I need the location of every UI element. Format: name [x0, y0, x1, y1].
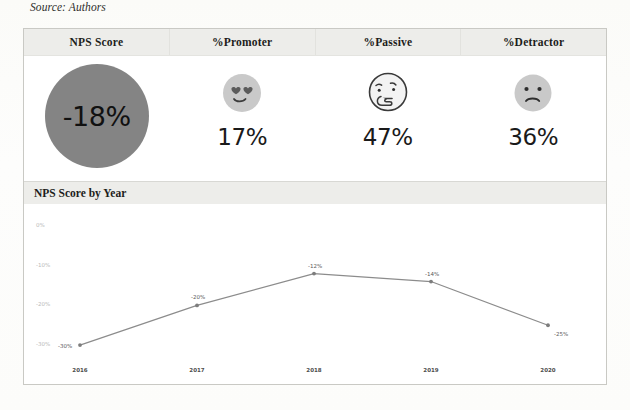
kpi-cell-detractor: 36%: [461, 56, 607, 182]
heart-eyes-face-icon: [219, 68, 265, 118]
data-point-label: -14%: [425, 271, 439, 277]
kpi-cell-passive: 47%: [315, 56, 461, 182]
x-axis-tick-label: 2020: [540, 367, 555, 373]
data-point-label: -20%: [191, 294, 205, 300]
thinking-face-icon: [365, 68, 411, 118]
kpi-header-passive: %Passive: [316, 29, 462, 55]
detractor-value: 36%: [508, 124, 558, 150]
kpi-header-nps-score: NPS Score: [24, 29, 170, 55]
kpi-header-promoter: %Promoter: [170, 29, 316, 55]
data-point-label: -25%: [554, 331, 568, 337]
kpi-cell-nps-score: -18%: [24, 56, 170, 182]
data-point-label: -30%: [58, 343, 72, 349]
kpi-body-row: -18% 17%: [24, 56, 606, 182]
frowning-face-icon: [510, 68, 556, 118]
promoter-value: 17%: [217, 124, 267, 150]
nps-score-circle: -18%: [45, 64, 149, 168]
chart-title: NPS Score by Year: [24, 182, 606, 204]
kpi-header-detractor: %Detractor: [461, 29, 606, 55]
nps-dashboard-card: NPS Score %Promoter %Passive %Detractor …: [23, 28, 607, 385]
x-axis-tick-label: 2016: [72, 367, 87, 373]
chart-plot-area: 0%-10%-20%-30%-30%-20%-12%-14%-25%201620…: [24, 204, 606, 385]
y-axis-tick-label: 0%: [36, 222, 45, 228]
y-axis-tick-label: -10%: [36, 262, 50, 268]
y-axis-tick-label: -30%: [36, 341, 50, 347]
nps-line-chart: [24, 204, 606, 385]
y-axis-tick-label: -20%: [36, 301, 50, 307]
source-note: Source: Authors: [30, 1, 106, 13]
chart-panel: NPS Score by Year 0%-10%-20%-30%-30%-20%…: [24, 182, 606, 385]
passive-value: 47%: [363, 124, 413, 150]
kpi-panel: NPS Score %Promoter %Passive %Detractor …: [24, 29, 606, 182]
x-axis-tick-label: 2017: [189, 367, 204, 373]
data-point-label: -12%: [308, 263, 322, 269]
kpi-cell-promoter: 17%: [170, 56, 316, 182]
x-axis-tick-label: 2019: [423, 367, 438, 373]
nps-score-value: -18%: [63, 101, 131, 132]
kpi-header-row: NPS Score %Promoter %Passive %Detractor: [24, 29, 606, 56]
x-axis-tick-label: 2018: [306, 367, 321, 373]
